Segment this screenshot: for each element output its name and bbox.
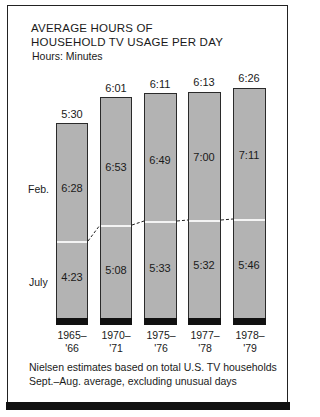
july-value-1978: 5:46 bbox=[229, 259, 269, 271]
july-value-1977: 5:32 bbox=[184, 259, 224, 271]
x-tick-line: 1965– bbox=[50, 329, 94, 342]
july-value-1965: 4:23 bbox=[52, 271, 92, 283]
feb-value-1978: 7:11 bbox=[229, 149, 269, 161]
feb-value-1970: 6:53 bbox=[96, 161, 136, 173]
feb-value-1965: 6:28 bbox=[52, 182, 92, 194]
july-value-1970: 5:08 bbox=[96, 264, 136, 276]
x-tick-line: '76 bbox=[139, 342, 183, 355]
x-tick-line: 1970– bbox=[94, 329, 138, 342]
x-tick-1978: 1978– '79 bbox=[228, 329, 272, 355]
method-note: Sept.–Aug. average, excluding unusual da… bbox=[29, 375, 237, 387]
x-tick-1975: 1975– '76 bbox=[139, 329, 183, 355]
x-tick-line: 1978– bbox=[228, 329, 272, 342]
x-tick-line: '78 bbox=[183, 342, 227, 355]
x-tick-1977: 1977– '78 bbox=[183, 329, 227, 355]
feb-value-1975: 6:49 bbox=[140, 154, 180, 166]
total-label-1965: 5:30 bbox=[52, 108, 92, 120]
x-tick-line: '79 bbox=[228, 342, 272, 355]
total-label-1978: 6:26 bbox=[229, 72, 269, 84]
feb-value-1977: 7:00 bbox=[184, 151, 224, 163]
x-tick-line: 1975– bbox=[139, 329, 183, 342]
row-label-feb: Feb. bbox=[28, 183, 49, 195]
total-label-1977: 6:13 bbox=[184, 76, 224, 88]
row-label-july: July bbox=[29, 276, 48, 288]
x-tick-line: '66 bbox=[50, 342, 94, 355]
x-tick-1965: 1965– '66 bbox=[50, 329, 94, 355]
x-tick-line: '71 bbox=[94, 342, 138, 355]
x-tick-1970: 1970– '71 bbox=[94, 329, 138, 355]
total-label-1975: 6:11 bbox=[140, 78, 180, 90]
source-note: Nielsen estimates based on total U.S. TV… bbox=[29, 361, 277, 373]
x-tick-line: 1977– bbox=[183, 329, 227, 342]
total-label-1970: 6:01 bbox=[96, 82, 136, 94]
july-value-1975: 5:33 bbox=[140, 262, 180, 274]
